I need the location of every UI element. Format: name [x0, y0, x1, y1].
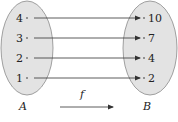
dot: [26, 17, 28, 19]
dot: [143, 57, 145, 59]
set-a-element: 3: [16, 32, 23, 45]
dot: [143, 37, 145, 39]
function-mapping-diagram: 4 3 2 1 10 7 4 2 A B f: [0, 0, 178, 122]
set-b-label: B: [142, 100, 151, 113]
dot: [26, 57, 28, 59]
set-a-label: A: [18, 100, 27, 113]
set-b-element: 10: [148, 12, 162, 25]
set-a-element: 4: [16, 12, 23, 25]
dot: [26, 77, 28, 79]
set-a-element: 2: [16, 52, 23, 65]
set-a-element: 1: [16, 72, 23, 85]
set-a-ellipse: [1, 1, 53, 95]
set-b-element: 2: [148, 72, 155, 85]
dot: [143, 77, 145, 79]
dot: [26, 37, 28, 39]
set-b-element: 7: [148, 32, 155, 45]
dot: [143, 17, 145, 19]
set-b-element: 4: [148, 52, 155, 65]
function-label: f: [79, 88, 86, 101]
